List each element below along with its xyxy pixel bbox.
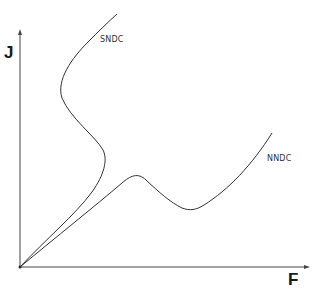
y-axis-arrow-icon bbox=[18, 29, 22, 35]
x-axis-arrow-icon bbox=[304, 265, 310, 269]
sndc-label: SNDC bbox=[100, 35, 124, 44]
sndc-curve bbox=[20, 14, 117, 267]
nndc-label: NNDC bbox=[267, 154, 292, 163]
x-axis-label: F bbox=[288, 270, 298, 290]
nndc-curve bbox=[20, 133, 272, 267]
jf-diagram bbox=[0, 0, 319, 294]
y-axis-label: J bbox=[4, 43, 13, 63]
